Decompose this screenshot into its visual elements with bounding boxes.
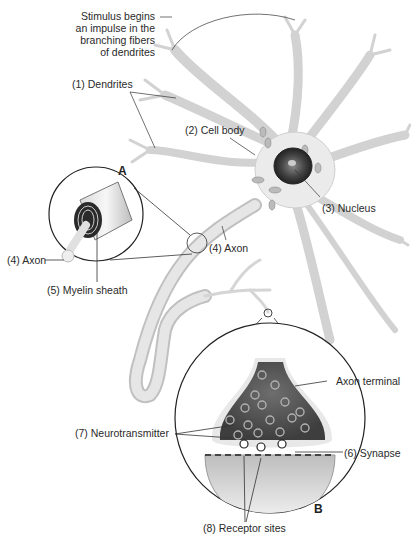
- stimulus-line-4: of dendrites: [60, 46, 155, 58]
- axon-terminal-label: Axon terminal: [336, 375, 400, 387]
- stimulus-line-3: branching fibers: [60, 34, 155, 46]
- axon-label-main: (4) Axon: [209, 242, 248, 254]
- axon-label-inset: (4) Axon: [7, 254, 46, 266]
- myelin-sheath-label: (5) Myelin sheath: [47, 284, 128, 296]
- receptor-sites-label: (8) Receptor sites: [203, 522, 286, 534]
- stimulus-line-2: an impulse in the: [60, 22, 155, 34]
- dendrites-label: (1) Dendrites: [72, 78, 133, 90]
- synapse-label: (6) Synapse: [344, 447, 401, 459]
- terminal-branches: [205, 260, 270, 312]
- nucleus-shape: [274, 148, 312, 184]
- nucleus-label: (3) Nucleus: [322, 202, 376, 214]
- stimulus-line-1: Stimulus begins: [60, 10, 155, 22]
- stimulus-label: Stimulus begins an impulse in the branch…: [60, 10, 155, 58]
- cell-body-label: (2) Cell body: [185, 124, 245, 136]
- panel-a-label: A: [118, 164, 127, 178]
- neurotransmitter-label: (7) Neurotransmitter: [75, 427, 169, 439]
- panel-b-label: B: [314, 502, 323, 516]
- inset-b: [175, 318, 365, 522]
